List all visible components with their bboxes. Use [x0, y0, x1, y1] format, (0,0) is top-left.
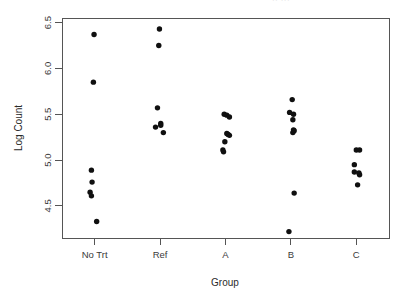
data-point [158, 123, 163, 128]
x-axis-group: No TrtRefABC Group [62, 238, 389, 288]
data-point [94, 219, 99, 224]
data-point [227, 133, 232, 138]
data-point [91, 32, 96, 37]
x-tick-label: C [353, 249, 360, 260]
y-tick-label: 4.5 [42, 199, 53, 212]
data-point [91, 79, 96, 84]
data-point [155, 105, 160, 110]
data-point [290, 117, 295, 122]
x-axis-title: Group [211, 277, 239, 288]
x-tick-label: Ref [153, 249, 168, 260]
data-point [89, 179, 94, 184]
plot-canvas: 4.55.05.56.06.5 Log Count No TrtRefABC G… [0, 0, 402, 300]
data-point [291, 112, 296, 117]
data-point [222, 139, 227, 144]
data-points-layer [87, 26, 362, 234]
data-point [156, 43, 161, 48]
data-point [290, 97, 295, 102]
data-point [89, 193, 94, 198]
y-axis-title: Log Count [13, 105, 24, 151]
data-point [291, 190, 296, 195]
y-tick-label: 6.0 [42, 62, 53, 75]
x-tick-labels: No TrtRefABC [82, 249, 360, 260]
data-point [290, 130, 295, 135]
plot-frame [62, 18, 389, 238]
x-tick-label: No Trt [82, 249, 108, 260]
data-point [89, 167, 94, 172]
data-point [355, 182, 360, 187]
strip-chart-plot: ·· ··· 4.55.05.56.06.5 Log Count No TrtR… [0, 0, 402, 300]
x-tick-label: A [222, 249, 229, 260]
y-tick-labels: 4.55.05.56.06.5 [42, 16, 53, 213]
data-point [357, 147, 362, 152]
data-point [161, 130, 166, 135]
y-tick-label: 5.5 [42, 108, 53, 121]
y-axis-group: 4.55.05.56.06.5 Log Count [13, 16, 62, 238]
data-point [352, 162, 357, 167]
data-point [153, 124, 158, 129]
data-point [286, 229, 291, 234]
y-tick-marks [55, 23, 62, 206]
y-tick-label: 6.5 [42, 16, 53, 29]
y-tick-label: 5.0 [42, 153, 53, 166]
data-point [157, 26, 162, 31]
x-tick-label: B [288, 249, 294, 260]
x-tick-marks [95, 238, 357, 245]
data-point [227, 114, 232, 119]
data-point [221, 149, 226, 154]
data-point [357, 172, 362, 177]
data-point [352, 169, 357, 174]
